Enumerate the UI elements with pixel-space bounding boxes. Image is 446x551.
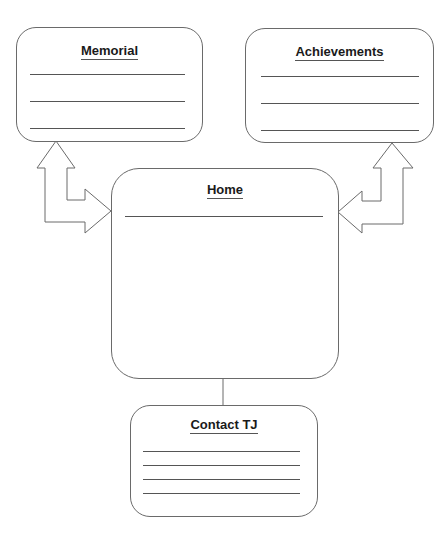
placeholder-line — [30, 128, 185, 129]
placeholder-line — [30, 101, 185, 102]
contact-box[interactable]: Contact TJ — [130, 405, 318, 517]
placeholder-line — [143, 479, 300, 480]
placeholder-line — [30, 74, 185, 75]
memorial-box[interactable]: Memorial — [16, 27, 203, 142]
placeholder-line — [143, 493, 300, 494]
achievements-title: Achievements — [246, 44, 433, 59]
home-box[interactable]: Home — [111, 168, 339, 379]
placeholder-line — [261, 76, 419, 77]
arrow-achievements-home — [338, 143, 413, 233]
achievements-box[interactable]: Achievements — [245, 28, 434, 143]
home-title: Home — [112, 182, 338, 197]
placeholder-line — [143, 465, 300, 466]
memorial-title: Memorial — [17, 43, 202, 58]
placeholder-line — [261, 103, 419, 104]
placeholder-line — [261, 130, 419, 131]
placeholder-line — [143, 451, 300, 452]
placeholder-line — [125, 216, 323, 217]
arrow-memorial-home — [37, 141, 111, 233]
contact-title: Contact TJ — [131, 417, 317, 432]
